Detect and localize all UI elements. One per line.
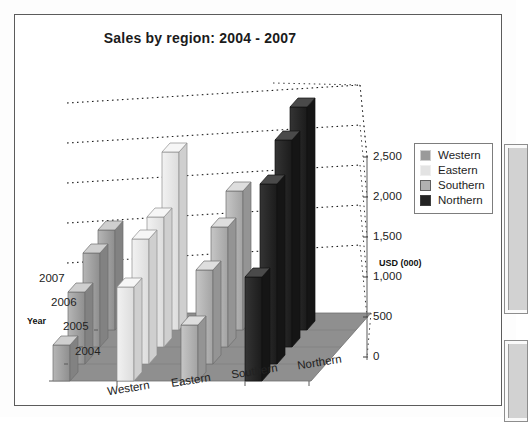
year-label-2005: 2005	[63, 320, 89, 332]
chart-frame: Sales by region: 2004 - 2007	[14, 14, 502, 406]
legend-item-eastern[interactable]: Eastern	[420, 163, 485, 178]
y-tick-1500: 1,500	[373, 230, 402, 242]
year-label-2006: 2006	[51, 296, 77, 308]
year-axis-title: Year	[27, 316, 46, 326]
legend-swatch-southern	[420, 180, 431, 191]
y-tick-1000: 1,000	[373, 270, 402, 282]
legend-item-northern[interactable]: Northern	[420, 193, 485, 208]
panel-fill	[508, 344, 527, 418]
year-label-2004: 2004	[75, 345, 101, 357]
right-side-panel-lower	[504, 340, 528, 422]
y-tick-2000: 2,000	[373, 190, 402, 202]
legend-label-western: Western	[438, 150, 481, 162]
panel-fill	[508, 148, 527, 310]
legend-swatch-northern	[420, 195, 431, 206]
y-tick-2500: 2,500	[373, 150, 402, 162]
legend-swatch-western	[420, 150, 431, 161]
legend-label-southern: Southern	[438, 180, 485, 192]
legend-label-northern: Northern	[438, 195, 483, 207]
y-tick-500: 500	[373, 310, 392, 322]
legend-swatch-eastern	[420, 165, 431, 176]
year-label-2007: 2007	[39, 272, 65, 284]
legend-item-southern[interactable]: Southern	[420, 178, 485, 193]
legend-label-eastern: Eastern	[438, 165, 478, 177]
legend-item-western[interactable]: Western	[420, 148, 485, 163]
right-side-panel-upper	[504, 144, 528, 314]
y-tick-0: 0	[373, 350, 379, 362]
value-axis-title: USD (000)	[379, 258, 422, 268]
chart-legend: Western Eastern Southern Northern	[414, 143, 493, 214]
